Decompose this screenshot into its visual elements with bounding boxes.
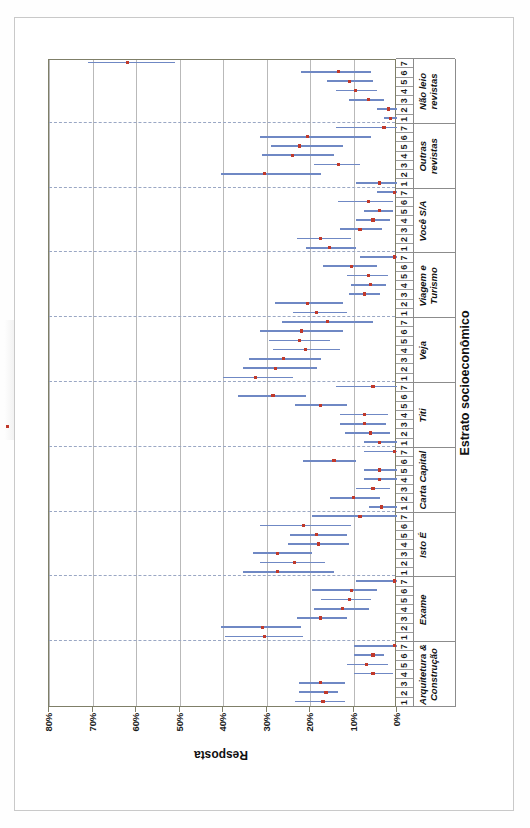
min-max-range-bar bbox=[336, 127, 397, 129]
legend-item-maximo: Máximo bbox=[0, 451, 1, 488]
x-group-label: Veja bbox=[413, 318, 455, 383]
x-stratum-separator bbox=[396, 95, 413, 96]
data-row bbox=[49, 632, 397, 641]
min-max-range-bar bbox=[293, 312, 347, 314]
data-row bbox=[49, 678, 397, 687]
data-row bbox=[49, 336, 397, 345]
mean-marker bbox=[291, 154, 294, 157]
min-max-range-bar bbox=[336, 386, 397, 388]
x-stratum-separator bbox=[396, 114, 413, 115]
x-stratum-separator bbox=[396, 493, 413, 494]
x-stratum-separator bbox=[396, 225, 413, 226]
mean-marker bbox=[369, 283, 372, 286]
x-stratum-separator bbox=[396, 549, 413, 550]
x-stratum-separator bbox=[396, 530, 413, 531]
data-row bbox=[49, 178, 397, 187]
x-stratum-separator bbox=[396, 604, 413, 605]
x-stratum-separator bbox=[396, 586, 413, 587]
data-row bbox=[49, 660, 397, 669]
y-tick-mark bbox=[135, 707, 136, 712]
data-row bbox=[49, 95, 397, 104]
y-tick-mark bbox=[396, 707, 397, 712]
x-stratum-separator bbox=[396, 438, 413, 439]
y-tick-label: 10% bbox=[347, 713, 358, 731]
data-row bbox=[49, 243, 397, 252]
min-max-range-bar bbox=[262, 154, 334, 156]
mean-marker bbox=[352, 496, 355, 499]
min-max-range-bar bbox=[299, 691, 338, 693]
mean-marker bbox=[337, 70, 340, 73]
x-group-separator bbox=[396, 641, 455, 642]
data-row bbox=[49, 132, 397, 141]
data-row bbox=[49, 391, 397, 400]
data-row bbox=[49, 650, 397, 659]
data-row bbox=[49, 345, 397, 354]
mean-marker bbox=[319, 681, 322, 684]
x-group-label: Você S/A bbox=[413, 189, 455, 254]
mean-marker bbox=[263, 635, 266, 638]
x-stratum-separator bbox=[396, 484, 413, 485]
x-group-separator bbox=[396, 512, 455, 513]
x-stratum-separator bbox=[396, 243, 413, 244]
mean-marker bbox=[378, 441, 381, 444]
mean-marker bbox=[274, 367, 277, 370]
x-group-separator bbox=[396, 706, 455, 707]
min-max-range-bar bbox=[303, 460, 355, 462]
data-row bbox=[49, 364, 397, 373]
mean-marker bbox=[378, 209, 381, 212]
min-max-range-bar bbox=[338, 201, 392, 203]
min-max-range-bar bbox=[253, 552, 312, 554]
x-stratum-separator bbox=[396, 558, 413, 559]
mean-marker bbox=[378, 478, 381, 481]
data-row bbox=[49, 234, 397, 243]
legend-item-media: Média bbox=[0, 414, 1, 442]
data-row bbox=[49, 114, 397, 123]
mean-marker bbox=[282, 357, 285, 360]
data-row bbox=[49, 317, 397, 326]
x-axis-title: Estrato socioeconômico bbox=[458, 59, 472, 707]
x-group-label: Titi bbox=[413, 383, 455, 448]
mean-marker bbox=[348, 598, 351, 601]
min-max-range-bar bbox=[312, 589, 377, 591]
legend-mean-swatch bbox=[6, 425, 9, 428]
y-tick-label: 0% bbox=[391, 713, 402, 726]
min-max-range-bar bbox=[297, 238, 351, 240]
x-stratum-separator bbox=[396, 678, 413, 679]
mean-marker bbox=[298, 144, 301, 147]
x-group-separator bbox=[396, 123, 455, 124]
data-row bbox=[49, 104, 397, 113]
mean-marker bbox=[367, 274, 370, 277]
mean-marker bbox=[358, 228, 361, 231]
x-group-label: Exame bbox=[413, 577, 455, 642]
mean-marker bbox=[263, 172, 266, 175]
x-stratum-separator bbox=[396, 391, 413, 392]
data-row bbox=[49, 697, 397, 706]
mean-marker bbox=[298, 339, 301, 342]
x-stratum-separator bbox=[396, 660, 413, 661]
min-max-range-bar bbox=[356, 580, 397, 582]
x-stratum-separator bbox=[396, 104, 413, 105]
data-row bbox=[49, 419, 397, 428]
mean-marker bbox=[369, 431, 372, 434]
mean-marker bbox=[300, 330, 303, 333]
data-row bbox=[49, 447, 397, 456]
data-row bbox=[49, 595, 397, 604]
x-stratum-separator bbox=[396, 697, 413, 698]
x-stratum-separator bbox=[396, 178, 413, 179]
x-stratum-separator bbox=[396, 160, 413, 161]
x-stratum-separator bbox=[396, 197, 413, 198]
data-row bbox=[49, 558, 397, 567]
min-max-range-bar bbox=[243, 367, 317, 369]
min-max-range-bar bbox=[88, 62, 175, 64]
mean-marker bbox=[389, 117, 392, 120]
min-max-range-bar bbox=[364, 451, 397, 453]
mean-marker bbox=[387, 107, 390, 110]
x-stratum-separator bbox=[396, 613, 413, 614]
x-stratum-separator bbox=[396, 502, 413, 503]
y-tick-label: 30% bbox=[260, 713, 271, 731]
mean-marker bbox=[126, 61, 129, 64]
mean-marker bbox=[363, 292, 366, 295]
x-stratum-separator bbox=[396, 280, 413, 281]
min-max-range-bar bbox=[271, 145, 343, 147]
min-max-range-bar bbox=[221, 173, 321, 175]
